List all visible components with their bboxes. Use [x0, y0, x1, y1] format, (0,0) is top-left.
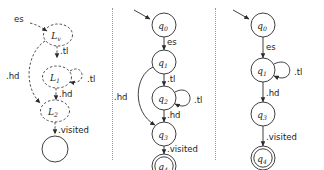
- left-diagram-svg: es Lv .tl L1 .tl .hd .hd L2 .vis: [0, 0, 112, 170]
- diagram-panel-left: es Lv .tl L1 .tl .hd .hd L2 .vis: [0, 0, 112, 170]
- edge-label-tl: .tl: [294, 67, 302, 77]
- edge-label-tl-2: .tl: [194, 95, 202, 105]
- node-Lv-label: Lv: [50, 31, 61, 42]
- edge-start-to-Lv: [30, 23, 47, 31]
- middle-diagram-svg: q0 es q1 .tl q2 .tl .hd .hd q3: [112, 0, 215, 170]
- edge-label-hd-2: .hd: [114, 92, 128, 102]
- edge-q1-self-loop: [274, 62, 290, 78]
- edge-L1-self-loop: [70, 69, 82, 82]
- diagram-panel-right: q0 es q1 .tl .hd q3 .visited q4: [215, 0, 324, 170]
- diagram-panel-middle: q0 es q1 .tl q2 .tl .hd .hd q3: [112, 0, 215, 170]
- edge-Lv-to-L2-arc: [29, 41, 45, 103]
- edge-label-tl-1: .tl: [167, 74, 175, 84]
- figure-canvas: es Lv .tl L1 .tl .hd .hd L2 .vis: [0, 0, 324, 170]
- node-L2-label: L2: [47, 107, 58, 118]
- edge-label-es: es: [14, 14, 24, 24]
- edge-q2-self-loop: [175, 90, 190, 106]
- node-final-empty[interactable]: [42, 136, 68, 162]
- edge-label-visited-1: .visited: [58, 125, 89, 135]
- edge-label-hd: .hd: [266, 88, 280, 98]
- edge-label-visited: .visited: [266, 132, 297, 142]
- edge-label-tl-2: .tl: [87, 74, 95, 84]
- right-diagram-svg: q0 es q1 .tl .hd q3 .visited q4: [215, 0, 324, 170]
- edge-label-visited: .visited: [167, 144, 198, 154]
- edge-start-to-q0: [233, 10, 249, 19]
- edge-label-hd-1: .hd: [167, 110, 181, 120]
- edge-start-to-q0: [134, 10, 150, 19]
- edge-label-hd-2: .hd: [6, 71, 20, 81]
- edge-label-tl-1: .tl: [60, 46, 68, 56]
- edge-label-es: es: [266, 42, 276, 52]
- edge-label-hd-1: .hd: [59, 89, 73, 99]
- node-L1-label: L1: [49, 73, 60, 84]
- edge-label-es: es: [167, 37, 177, 47]
